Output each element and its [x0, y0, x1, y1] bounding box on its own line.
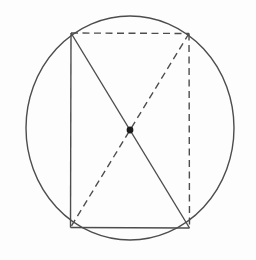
figure-canvas [0, 0, 256, 260]
rect-right-side [189, 34, 190, 229]
geometry-figure [0, 0, 256, 260]
rect-top-side [71, 33, 189, 34]
center-point [127, 127, 134, 134]
rect-left-side [71, 33, 72, 228]
rect-bottom-side [71, 228, 190, 229]
